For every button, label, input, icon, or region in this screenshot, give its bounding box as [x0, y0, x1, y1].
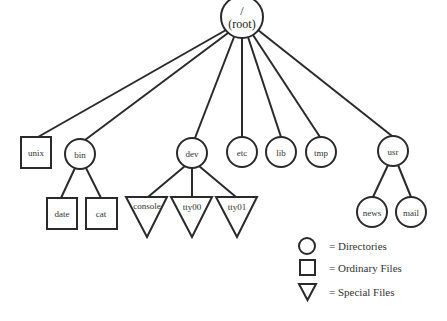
- legend-label-special-files: = Special Files: [329, 286, 394, 298]
- node-etc: etc: [227, 137, 257, 167]
- node-label-console: console: [133, 201, 161, 211]
- edges: [38, 30, 411, 198]
- edge-usr-mail: [398, 165, 411, 197]
- node-label-unix: unix: [28, 148, 45, 158]
- node-tmp: tmp: [306, 137, 336, 167]
- node-label-mail: mail: [403, 208, 419, 218]
- node-news: news: [357, 197, 387, 227]
- node-label-tty00: tty00: [183, 202, 202, 212]
- node-label-date: date: [55, 209, 70, 219]
- edge-bin-cat: [86, 168, 101, 198]
- legend-circle-icon: [299, 238, 315, 254]
- root-label-text: (root): [228, 17, 255, 31]
- node-tty01: tty01: [216, 197, 257, 237]
- node-bin: bin: [65, 139, 95, 169]
- node-label-bin: bin: [74, 150, 86, 160]
- edge-root-unix: [38, 30, 226, 137]
- node-tty00: tty00: [171, 197, 212, 237]
- edge-root-bin: [85, 33, 228, 140]
- node-label-usr: usr: [388, 147, 399, 157]
- node-root: / (root): [221, 0, 263, 38]
- edge-dev-tty01: [199, 166, 236, 197]
- node-dev: dev: [177, 138, 207, 168]
- node-label-cat: cat: [96, 209, 107, 219]
- legend-label-ordinary-files: = Ordinary Files: [329, 262, 402, 274]
- file-system-tree-diagram: / (root) unix bin dev etc lib tmp usr da…: [0, 0, 447, 321]
- edge-root-tmp: [253, 35, 320, 137]
- edge-usr-news: [373, 165, 388, 197]
- legend-triangle-icon: [299, 284, 316, 300]
- edge-bin-date: [61, 168, 75, 198]
- node-label-dev: dev: [186, 149, 199, 159]
- node-label-tmp: tmp: [314, 148, 329, 158]
- legend: = Directories = Ordinary Files = Special…: [299, 238, 402, 300]
- legend-label-directories: = Directories: [329, 240, 387, 252]
- edge-dev-console: [148, 166, 185, 197]
- node-label-etc: etc: [237, 148, 248, 158]
- node-label-lib: lib: [276, 148, 286, 158]
- node-lib: lib: [266, 137, 296, 167]
- node-label-news: news: [363, 208, 382, 218]
- legend-square-icon: [300, 260, 315, 275]
- node-unix: unix: [21, 137, 51, 168]
- edge-root-usr: [258, 30, 392, 136]
- node-date: date: [47, 198, 77, 229]
- node-console: console: [126, 197, 167, 237]
- node-mail: mail: [396, 197, 426, 227]
- node-label-tty01: tty01: [228, 202, 247, 212]
- node-cat: cat: [86, 198, 117, 229]
- node-usr: usr: [378, 136, 408, 166]
